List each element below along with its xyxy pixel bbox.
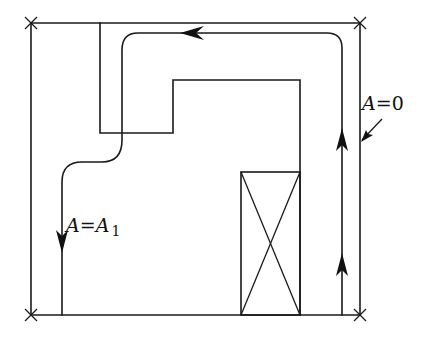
diagram-canvas: A=0 A=A1 xyxy=(0,0,430,340)
crossed-block xyxy=(241,172,300,315)
label-outer-boundary: A=0 xyxy=(360,92,404,114)
leader-arrow-icon xyxy=(361,119,382,142)
inner-stepped-region xyxy=(100,23,300,315)
outer-boundary xyxy=(31,23,360,315)
svg-text:A=A1: A=A1 xyxy=(64,214,120,239)
svg-text:A=0: A=0 xyxy=(360,92,404,114)
label-inner-line: A=A1 xyxy=(64,214,120,239)
